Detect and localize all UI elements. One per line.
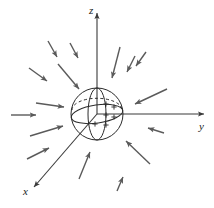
vector-field-figure: z y x <box>0 0 214 208</box>
arrow-sw-lower <box>27 148 49 159</box>
z-axis-label: z <box>88 4 94 16</box>
arrow-s-right <box>117 177 123 191</box>
arrow-ne-upper <box>127 56 135 72</box>
vector-field-arrows <box>11 41 167 191</box>
arrow-nw-mid <box>70 43 78 58</box>
arrow-ne-far <box>136 52 146 66</box>
arrow-sw-upper <box>30 126 63 136</box>
y-axis-label: y <box>198 120 204 132</box>
arrow-w-mid <box>36 103 64 107</box>
arrow-s-left <box>79 152 90 179</box>
arrow-n-right <box>112 47 120 78</box>
arrow-e-upper <box>135 89 167 104</box>
arrow-se-lower <box>126 141 150 164</box>
arrow-nw-far <box>48 41 57 57</box>
arrow-se-mid <box>148 128 164 133</box>
arrow-n-left <box>58 64 79 89</box>
arrow-w-upper <box>29 68 47 81</box>
x-axis-label: x <box>22 185 28 197</box>
figure-canvas: z y x <box>0 0 214 208</box>
